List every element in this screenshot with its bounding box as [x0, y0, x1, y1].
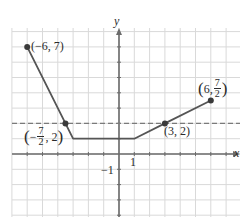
paren-close: ): [222, 80, 228, 97]
grid-lines: [12, 28, 240, 217]
point-label-6-7half: ( 6, 7 2 ): [198, 78, 227, 99]
point-label-3-2: (3, 2): [164, 125, 190, 137]
y-axis-label: y: [114, 15, 119, 27]
point-label-neg6-7: (−6, 7): [31, 40, 64, 52]
label-rest: , 2: [45, 131, 57, 143]
denominator: 2: [215, 89, 220, 99]
label-pre: 6,: [204, 83, 213, 95]
point-label-neg7half-2: ( − 7 2 , 2 ): [24, 126, 63, 147]
paren-close: ): [57, 128, 63, 145]
x-axis-label: x: [234, 147, 239, 159]
axes: [12, 28, 240, 217]
data-point-marker: [24, 44, 30, 50]
fraction-7-2: 7 2: [37, 126, 44, 147]
denominator: 2: [38, 137, 43, 147]
y-tick-label-neg1: −1: [101, 164, 114, 176]
chart-canvas: [0, 0, 252, 217]
data-point-marker: [62, 120, 68, 126]
x-tick-label-1: 1: [130, 156, 136, 168]
fraction-7-2: 7 2: [214, 78, 221, 99]
minus-sign: −: [30, 131, 37, 143]
